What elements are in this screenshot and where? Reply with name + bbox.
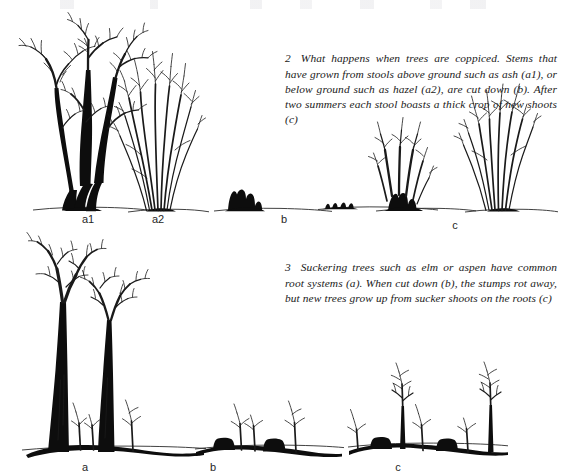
- fig3-a-suckering-trees: [22, 233, 206, 459]
- figure-3-caption: 3Suckering trees such as elm or aspen ha…: [285, 260, 557, 306]
- fig2-b-cut-stools: [214, 190, 438, 212]
- figure-3-number: 3: [285, 261, 291, 273]
- figure-2-caption: 2What happens when trees are coppiced. S…: [285, 51, 557, 127]
- fig3-label-c: c: [387, 461, 409, 473]
- fig2-c-ash-regrowth: [369, 118, 477, 212]
- fig2-label-a2: a2: [147, 213, 169, 225]
- scanned-page: .ink { fill:#0d0d0d; } .tw { stroke:#1a1…: [0, 0, 561, 474]
- figure-3-caption-text: Suckering trees such as elm or aspen hav…: [285, 261, 557, 303]
- fig3-c-sucker-trees: [348, 362, 508, 456]
- scan-edge-artifact: [0, 0, 561, 9]
- fig2-label-c: c: [444, 219, 466, 231]
- fig2-a2-hazel-stool: [110, 52, 210, 213]
- fig3-b-cut-stumps: [195, 401, 344, 457]
- figure-2-number: 2: [285, 52, 291, 64]
- fig2-label-a1: a1: [77, 213, 99, 225]
- figure-2-caption-text: What happens when trees are coppiced. St…: [285, 52, 557, 125]
- fig3-label-a: a: [74, 461, 96, 473]
- fig2-label-b: b: [273, 213, 295, 225]
- fig2-a1-ash-stool: [19, 13, 157, 212]
- fig3-label-b: b: [202, 461, 224, 473]
